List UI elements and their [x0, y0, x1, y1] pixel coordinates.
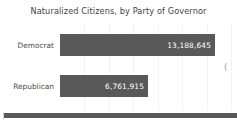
- bar-value-label: 13,188,645: [167, 41, 215, 50]
- bar-democrat[interactable]: 13,188,645: [60, 34, 215, 56]
- bar-republican[interactable]: 6,761,915: [60, 75, 148, 97]
- category-label-democrat: Democrat: [0, 34, 54, 56]
- plot-area: 13,188,645 6,761,915: [60, 22, 237, 110]
- clipped-glyph-artifact: (: [224, 62, 228, 73]
- bar-row: 6,761,915: [60, 75, 237, 97]
- chart-title: Naturalized Citizens, by Party of Govern…: [0, 6, 237, 16]
- bottom-clipped-band: [3, 113, 237, 118]
- category-label-republican: Republican: [0, 75, 54, 97]
- category-label-text: Republican: [13, 82, 54, 91]
- chart-container: Naturalized Citizens, by Party of Govern…: [0, 0, 237, 120]
- bar-value-label: 6,761,915: [105, 82, 148, 91]
- category-label-text: Democrat: [18, 41, 55, 50]
- category-axis: Democrat Republican: [0, 22, 56, 110]
- bar-row: 13,188,645: [60, 34, 237, 56]
- bottom-band-left-edge: [0, 112, 4, 120]
